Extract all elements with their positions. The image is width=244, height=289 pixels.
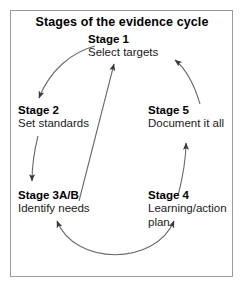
stage-detail: Document it all	[148, 117, 224, 131]
stage-heading: Stage 5	[148, 104, 224, 117]
evidence-cycle-figure: Stages of the evidence cycle Stage 1 Sel…	[0, 0, 244, 289]
stage-node-stage1: Stage 1 Select targets	[88, 33, 158, 60]
stage-node-stage4: Stage 4 Learning/action plan	[148, 189, 226, 229]
stage-heading: Stage 3A/B	[18, 189, 90, 202]
stage-node-stage3: Stage 3A/B Identify needs	[18, 189, 90, 216]
stage-node-stage5: Stage 5 Document it all	[148, 104, 224, 131]
stage-heading: Stage 2	[18, 104, 89, 117]
stage-heading: Stage 1	[88, 33, 158, 46]
stage-heading: Stage 4	[148, 189, 226, 202]
stage-detail: Learning/action plan	[148, 202, 226, 229]
stage-node-stage2: Stage 2 Set standards	[18, 104, 89, 131]
figure-title: Stages of the evidence cycle	[0, 15, 244, 29]
stage-detail: Identify needs	[18, 202, 90, 216]
stage-detail: Set standards	[18, 117, 89, 131]
stage-detail: Select targets	[88, 46, 158, 60]
